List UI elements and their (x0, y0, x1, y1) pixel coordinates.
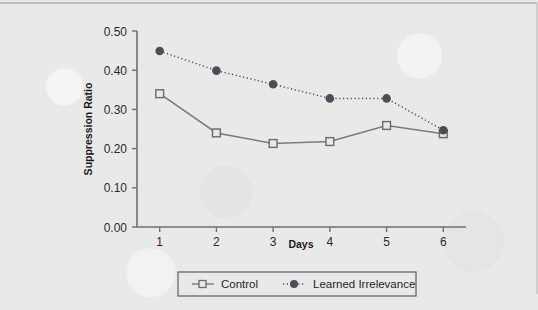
series-line (160, 94, 444, 144)
y-tick-label: 0.00 (104, 221, 128, 235)
data-point-marker (439, 126, 448, 135)
y-tick-label: 0.50 (104, 25, 128, 39)
y-tick-label: 0.40 (104, 64, 128, 78)
figure-panel: 0.000.100.200.300.400.50 123456 Days Sup… (0, 0, 538, 310)
x-tick-label: 6 (440, 235, 447, 249)
open-square-icon (199, 281, 206, 288)
x-tick-label: 2 (213, 235, 220, 249)
data-point-marker (213, 129, 221, 137)
x-tick-label: 4 (327, 235, 334, 249)
series-control (156, 90, 447, 148)
series-layer (155, 47, 447, 148)
legend-label-control: Control (221, 278, 258, 290)
x-tick-label: 3 (270, 235, 277, 249)
data-point-marker (269, 140, 277, 148)
series-line (160, 51, 444, 130)
data-point-marker (156, 90, 164, 98)
data-point-marker (326, 138, 334, 146)
y-axis-tick-labels: 0.000.100.200.300.400.50 (104, 25, 128, 235)
x-tick-label: 5 (383, 235, 390, 249)
y-tick-label: 0.30 (104, 103, 128, 117)
data-point-marker (269, 80, 278, 89)
line-chart: 0.000.100.200.300.400.50 123456 Days Sup… (0, 0, 538, 310)
y-tick-label: 0.10 (104, 181, 128, 195)
y-axis-title: Suppression Ratio (82, 83, 94, 176)
filled-circle-icon (290, 280, 298, 288)
data-point-marker (326, 94, 335, 103)
data-point-marker (155, 47, 164, 56)
data-point-marker (383, 122, 391, 130)
x-tick-label: 1 (156, 235, 163, 249)
y-tick-label: 0.20 (104, 142, 128, 156)
data-point-marker (382, 94, 391, 103)
legend-label-learned-irrelevance: Learned Irrelevance (313, 278, 415, 290)
legend: Control Learned Irrelevance (178, 272, 416, 296)
data-point-marker (212, 66, 221, 75)
x-axis-title: Days (288, 238, 313, 250)
